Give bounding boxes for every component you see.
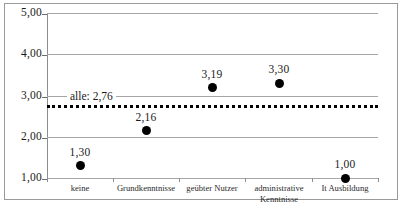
ytick-label-4: 4,00 bbox=[0, 48, 42, 59]
xtick-label-geuebter-nutzer: geübter Nutzer bbox=[175, 183, 249, 194]
reference-line-mean bbox=[47, 105, 378, 108]
xtick-mark bbox=[113, 178, 114, 182]
ytick-mark-3 bbox=[42, 97, 47, 98]
data-point-label: 2,16 bbox=[136, 111, 157, 123]
gridline-1 bbox=[47, 178, 378, 179]
gridline-2 bbox=[47, 137, 378, 138]
ytick-mark-2 bbox=[42, 138, 47, 139]
gridline-5 bbox=[47, 13, 378, 14]
data-point-marker[interactable] bbox=[142, 126, 151, 135]
data-point-marker[interactable] bbox=[76, 161, 85, 170]
reference-line-label: alle: 2,76 bbox=[67, 90, 116, 102]
ytick-mark-4 bbox=[42, 55, 47, 56]
data-point-label: 3,19 bbox=[202, 68, 223, 80]
xtick-label-grundkenntnisse: Grundkenntnisse bbox=[109, 183, 183, 194]
ytick-label-1: 1,00 bbox=[0, 172, 42, 183]
ytick-label-5: 5,00 bbox=[0, 7, 42, 18]
data-point-marker[interactable] bbox=[208, 83, 217, 92]
data-point-label: 3,30 bbox=[269, 63, 290, 75]
xtick-mark bbox=[179, 178, 180, 182]
data-point-marker[interactable] bbox=[341, 174, 350, 183]
plot-area: alle: 2,76 1,30 2,16 3,19 3,30 1,00 bbox=[47, 13, 378, 178]
xtick-label-administrative-kenntnisse: administrative Kenntnisse bbox=[242, 183, 316, 204]
xtick-label-it-ausbildung: It Ausbildung bbox=[308, 183, 382, 194]
xtick-label-keine: keine bbox=[43, 183, 117, 194]
xtick-mark bbox=[378, 178, 379, 182]
gridline-4 bbox=[47, 54, 378, 55]
ytick-label-3: 3,00 bbox=[0, 90, 42, 101]
xtick-mark bbox=[312, 178, 313, 182]
ytick-label-2: 2,00 bbox=[0, 131, 42, 142]
data-point-label: 1,00 bbox=[335, 158, 356, 170]
xtick-mark bbox=[245, 178, 246, 182]
xtick-mark bbox=[47, 178, 48, 182]
chart-figure: 5,00 4,00 3,00 2,00 1,00 alle: 2,76 bbox=[0, 0, 402, 211]
data-point-label: 1,30 bbox=[70, 146, 91, 158]
ytick-mark-5 bbox=[42, 14, 47, 15]
data-point-marker[interactable] bbox=[275, 79, 284, 88]
